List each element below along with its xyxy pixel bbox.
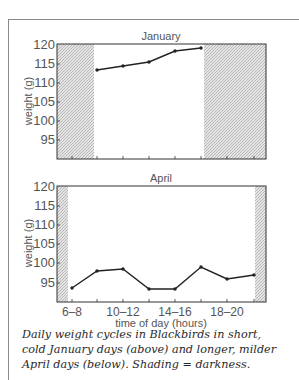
y-axis-label: weight (g): [22, 77, 34, 126]
april-chart: April 120 115 110 105 100 95: [22, 172, 266, 329]
svg-text:105: 105: [33, 236, 55, 251]
caption-line: Daily weight cycles in Blackbirds in sho…: [22, 327, 280, 342]
april-title: April: [150, 172, 172, 184]
svg-text:120: 120: [33, 179, 55, 194]
svg-text:100: 100: [33, 255, 55, 270]
caption-line: cold January days (above) and longer, mi…: [22, 342, 280, 357]
svg-text:6–8: 6–8: [62, 305, 82, 319]
darkness-shading-right: [255, 186, 266, 302]
y-tick-labels: 120 115 110 105 100 95: [33, 37, 55, 147]
darkness-shading-right: [204, 44, 266, 159]
january-title: January: [141, 30, 181, 42]
y-tick-labels: 120 115 110 105 100 95: [33, 179, 55, 290]
svg-text:120: 120: [33, 37, 55, 52]
svg-text:18–20: 18–20: [210, 305, 244, 319]
january-chart: January 120 115 110 105 100 95: [22, 30, 266, 159]
svg-text:110: 110: [34, 217, 55, 232]
january-weight-line: [97, 48, 201, 70]
svg-text:110: 110: [34, 75, 55, 90]
svg-text:115: 115: [34, 198, 55, 213]
plot-area: [57, 186, 266, 302]
svg-text:115: 115: [34, 56, 55, 71]
svg-text:100: 100: [33, 113, 55, 128]
darkness-shading-left: [57, 44, 94, 159]
y-axis-label: weight (g): [22, 219, 34, 268]
caption-line: April days (below). Shading = darkness.: [22, 357, 280, 372]
svg-text:105: 105: [33, 94, 55, 109]
figure-caption: Daily weight cycles in Blackbirds in sho…: [22, 327, 280, 372]
april-data-points: [70, 265, 255, 290]
svg-text:95: 95: [41, 275, 55, 290]
svg-text:95: 95: [41, 132, 55, 147]
